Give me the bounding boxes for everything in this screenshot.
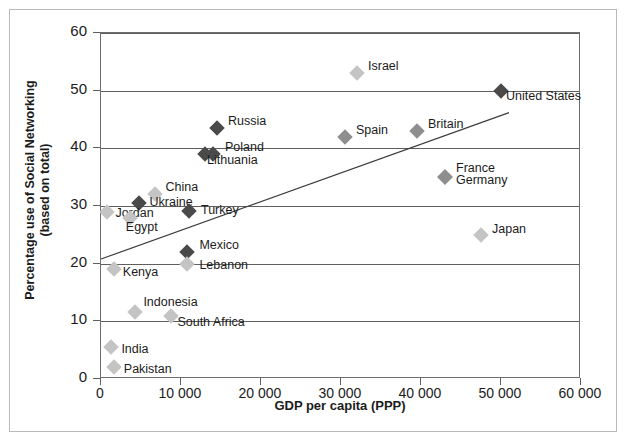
data-point-label: Russia [228,114,266,128]
data-point-label: Egypt [126,220,158,234]
data-point-label: South Africa [177,315,244,329]
x-tick-label: 20 000 [215,385,305,401]
x-tick [500,378,501,385]
data-point-label: Mexico [199,238,239,252]
y-tick [93,263,100,264]
plot-area: IsraelUnited StatesRussiaSpainBritainPol… [100,32,580,378]
y-tick [93,378,100,379]
data-point-label: Pakistan [124,362,172,376]
x-tick [340,378,341,385]
data-point-label: Germany [456,173,507,187]
data-point-label: United States [506,89,581,103]
x-tick [180,378,181,385]
data-point-label: Turkey [201,203,239,217]
y-tick-label: 0 [41,368,87,385]
x-tick [260,378,261,385]
y-tick [93,205,100,206]
y-axis-title: Percentage use of Social Networking (bas… [23,70,53,310]
data-point-label: Lebanon [199,258,248,272]
x-tick [580,378,581,385]
data-point-label: Britain [428,117,463,131]
data-point-label: India [121,342,148,356]
y-tick-label: 60 [41,22,87,39]
y-tick [93,90,100,91]
x-tick-label: 10 000 [135,385,225,401]
y-tick-label: 20 [41,253,87,270]
data-point-label: Spain [356,123,388,137]
y-tick [93,320,100,321]
y-tick-label: 50 [41,80,87,97]
y-tick-label: 30 [41,195,87,212]
y-tick-label: 10 [41,310,87,327]
y-tick-label: 40 [41,137,87,154]
data-point-label: Kenya [123,265,158,279]
x-tick-label: 30 000 [295,385,385,401]
data-point-label: Indonesia [143,295,197,309]
data-point-label: Lithuania [207,153,258,167]
y-tick [93,32,100,33]
x-tick-label: 0 [55,385,145,401]
y-tick [93,147,100,148]
x-tick [100,378,101,385]
data-point-label: China [166,180,199,194]
x-tick [420,378,421,385]
x-tick-label: 60 000 [535,385,625,401]
scatter-chart-figure: Percentage use of Social Networking (bas… [0,0,626,441]
data-point-label: Japan [492,222,526,236]
x-tick-label: 40 000 [375,385,465,401]
x-tick-label: 50 000 [455,385,545,401]
data-point-label: Israel [368,59,399,73]
data-point-label: Poland [225,140,264,154]
